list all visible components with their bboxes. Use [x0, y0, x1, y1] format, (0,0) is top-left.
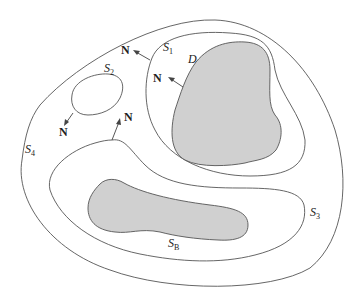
- label-s4: S4: [25, 143, 35, 158]
- label-normal-s1: N: [121, 44, 130, 56]
- normal-arrow-s3: [112, 122, 119, 140]
- label-d: D: [188, 53, 197, 65]
- label-s2: S2: [104, 62, 114, 77]
- label-s3: S3: [310, 206, 320, 221]
- region-sb: [88, 179, 248, 240]
- label-s1: S1: [163, 41, 173, 56]
- arrowhead-s1: [133, 50, 140, 55]
- diagram-canvas: S1 S2 S3 S4 SB D N N N N: [0, 0, 360, 294]
- arrowhead-s3: [116, 118, 121, 125]
- label-normal-s3: N: [124, 111, 133, 123]
- diagram-svg: [0, 0, 360, 294]
- label-normal-d: N: [153, 72, 162, 84]
- surface-s2: [72, 74, 123, 115]
- label-sb: SB: [168, 237, 179, 252]
- label-normal-s2: N: [59, 126, 68, 138]
